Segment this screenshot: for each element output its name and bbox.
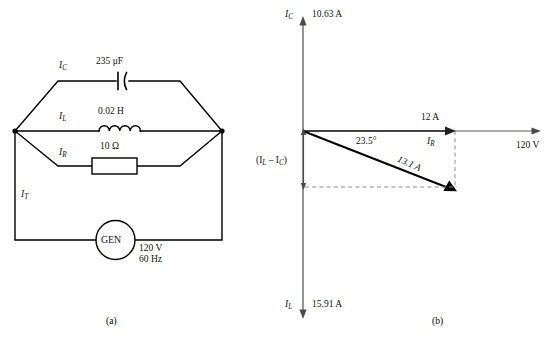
label-ic-value: 10.63 A <box>312 9 342 20</box>
label-il-minus-ic: (IL – IC) <box>256 155 287 167</box>
label-capacitor-value: 235 μF <box>96 56 123 67</box>
outer-loop-left <box>15 131 96 240</box>
resistor-branch-wire-left <box>15 131 92 166</box>
label-il-branch: IL <box>59 111 66 123</box>
circuit-diagram <box>12 73 224 260</box>
caption-b: (b) <box>432 316 443 326</box>
label-source-voltage: 120 V <box>139 243 162 254</box>
inductor-coil <box>99 126 141 131</box>
horizontal-axis-arrow <box>532 127 542 134</box>
label-voltage-reference: 120 V <box>516 140 539 151</box>
label-inductor-value: 0.02 H <box>98 106 124 117</box>
label-ic-axis: IC <box>285 9 293 21</box>
capacitor-branch-wire-right <box>129 81 222 131</box>
label-source-frequency: 60 Hz <box>139 254 162 265</box>
label-ir-value: 12 A <box>421 112 439 123</box>
ir-phasor-arrowhead <box>445 127 456 136</box>
label-ir-branch: IR <box>59 147 67 159</box>
capacitor-plate-right <box>124 73 126 90</box>
label-generator: GEN <box>101 234 121 245</box>
outer-loop-right <box>135 131 222 240</box>
figure-container: IC 235 μF IL 0.02 H IR 10 Ω IT GEN 120 V… <box>0 0 555 342</box>
label-ir-phasor: IR <box>427 136 435 148</box>
resistor-body <box>92 158 137 174</box>
il-minus-ic-measure <box>301 128 306 190</box>
label-ic-branch: IC <box>59 60 67 72</box>
label-il-value: 15.91 A <box>312 299 342 310</box>
label-phase-angle: 23.5° <box>356 136 376 147</box>
figure-svg <box>0 0 555 342</box>
vertical-axis-arrow-down <box>299 310 306 320</box>
caption-a: (a) <box>106 316 117 326</box>
label-it-total: IT <box>21 189 28 201</box>
resistor-branch-wire-right <box>137 131 222 166</box>
vertical-axis-arrow-up <box>299 16 306 26</box>
label-resistor-value: 10 Ω <box>100 141 119 152</box>
ir-phasor <box>303 127 456 136</box>
label-il-axis: IL <box>285 299 292 311</box>
